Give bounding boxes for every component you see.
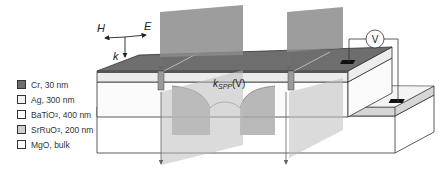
e-field-label: E	[144, 20, 152, 32]
voltmeter-label: V	[372, 34, 379, 45]
top-contact-pad	[340, 60, 355, 64]
cr-swatch	[17, 80, 26, 89]
legend-item-cr: Cr, 30 nm	[17, 77, 93, 92]
legend-item-ag: Ag, 300 nm	[17, 92, 93, 107]
legend-item-bto: BaTiO3, 400 nm	[17, 107, 93, 122]
ag-swatch	[17, 95, 26, 104]
legend-item-sro: SrRuO3, 200 nm	[17, 122, 93, 137]
h-field-label: H	[97, 22, 105, 34]
cr-layer	[97, 47, 392, 73]
mgo-swatch	[17, 140, 26, 149]
bto-swatch	[17, 110, 26, 119]
material-legend: Cr, 30 nm Ag, 300 nm BaTiO3, 400 nm SrRu…	[17, 77, 93, 152]
legend-item-mgo: MgO, bulk	[17, 137, 93, 152]
k-label: k	[113, 50, 119, 62]
bottom-contact-pad	[389, 99, 405, 103]
sro-swatch	[17, 125, 26, 134]
